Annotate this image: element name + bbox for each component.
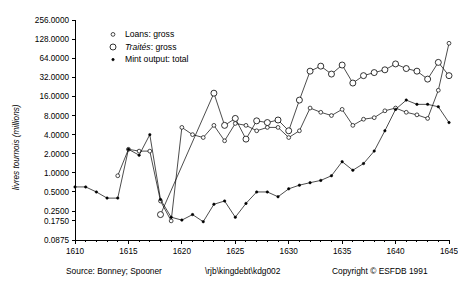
data-point bbox=[319, 110, 323, 114]
data-point bbox=[447, 41, 451, 45]
y-tick-label: 2.0000 bbox=[44, 150, 69, 159]
data-point bbox=[287, 188, 290, 191]
data-point bbox=[191, 133, 195, 137]
data-point bbox=[244, 123, 248, 127]
chart-figure: 256.0000128.000064.000032.000016.00008.0… bbox=[0, 0, 458, 288]
data-point bbox=[328, 71, 334, 77]
data-point bbox=[318, 63, 324, 69]
data-point bbox=[266, 191, 269, 194]
x-tick-label: 1615 bbox=[119, 247, 138, 256]
data-point bbox=[223, 139, 227, 143]
data-point bbox=[264, 120, 270, 126]
y-tick-label: 16.0000 bbox=[39, 92, 69, 101]
y-tick-label: 4.0000 bbox=[44, 131, 69, 140]
data-point bbox=[362, 117, 366, 121]
x-tick-label: 1630 bbox=[280, 247, 299, 256]
y-tick-label: 256.0000 bbox=[35, 16, 70, 25]
data-point bbox=[277, 196, 280, 199]
y-tick-label: 32.0000 bbox=[39, 73, 69, 82]
data-point bbox=[127, 148, 130, 151]
data-point bbox=[169, 219, 173, 223]
data-point bbox=[298, 184, 301, 187]
data-point bbox=[149, 133, 152, 136]
data-point bbox=[403, 66, 409, 72]
data-point bbox=[339, 62, 345, 68]
data-point bbox=[426, 117, 430, 121]
x-tick-label: 1620 bbox=[173, 247, 192, 256]
data-point bbox=[233, 122, 237, 126]
data-point bbox=[275, 117, 281, 123]
data-point bbox=[362, 162, 365, 165]
data-point bbox=[95, 191, 98, 194]
data-point bbox=[425, 76, 431, 82]
x-tick-label: 1645 bbox=[440, 247, 458, 256]
data-point bbox=[234, 216, 237, 219]
y-tick-label: 1.0000 bbox=[44, 169, 69, 178]
data-point bbox=[180, 126, 184, 130]
data-point bbox=[330, 114, 334, 118]
footer-copyright: Copyright © ESFDB 1991 bbox=[332, 266, 428, 276]
data-point bbox=[320, 179, 323, 182]
data-point bbox=[446, 73, 452, 79]
data-point bbox=[245, 202, 248, 205]
data-point bbox=[255, 191, 258, 194]
y-tick-label: 0.5000 bbox=[44, 188, 69, 197]
data-point bbox=[106, 197, 109, 200]
data-point bbox=[414, 68, 420, 74]
data-point bbox=[404, 110, 408, 114]
y-tick-label: 0.0875 bbox=[44, 236, 69, 245]
data-point bbox=[340, 107, 344, 111]
chart-footer: Source: Bonney; Spooner \rjb\kingdebt\kd… bbox=[66, 266, 428, 276]
data-point bbox=[191, 213, 194, 216]
data-point bbox=[394, 108, 397, 111]
legend-marker-open-circle-large bbox=[110, 44, 116, 50]
legend-label: Loans: gross bbox=[125, 29, 174, 39]
data-point bbox=[201, 136, 205, 140]
legend-marker-open-circle-small bbox=[111, 33, 115, 37]
data-point bbox=[373, 150, 376, 153]
data-point bbox=[254, 118, 260, 124]
y-tick-label: 64.0000 bbox=[39, 54, 69, 63]
legend-marker-filled-dot bbox=[112, 58, 115, 61]
data-point bbox=[436, 88, 440, 92]
y-tick-label: 8.0000 bbox=[44, 112, 69, 121]
data-point bbox=[232, 115, 238, 121]
data-point bbox=[74, 186, 77, 189]
data-point bbox=[437, 106, 440, 109]
data-point bbox=[213, 203, 216, 206]
data-point bbox=[383, 109, 387, 113]
data-point bbox=[298, 129, 302, 133]
x-tick-label: 1635 bbox=[333, 247, 352, 256]
data-point bbox=[148, 149, 152, 153]
data-point bbox=[372, 116, 376, 120]
x-tick-label: 1610 bbox=[66, 247, 85, 256]
legend-label: Traités: gross bbox=[125, 42, 176, 52]
data-point bbox=[159, 198, 162, 201]
data-point bbox=[361, 73, 367, 79]
data-point bbox=[330, 175, 333, 178]
x-tick-label: 1625 bbox=[226, 247, 245, 256]
data-point bbox=[138, 154, 141, 157]
data-point bbox=[435, 59, 441, 65]
log-line-chart: 256.0000128.000064.000032.000016.00008.0… bbox=[0, 0, 458, 288]
data-point bbox=[296, 97, 302, 103]
data-point bbox=[276, 126, 280, 130]
data-point bbox=[341, 160, 344, 163]
footer-source: Source: Bonney; Spooner bbox=[66, 266, 162, 276]
data-point bbox=[157, 212, 163, 218]
data-point bbox=[286, 128, 292, 134]
data-point bbox=[116, 174, 120, 178]
data-point bbox=[255, 129, 259, 133]
x-tick-label: 1640 bbox=[386, 247, 405, 256]
data-point bbox=[308, 106, 312, 110]
data-point bbox=[265, 126, 269, 130]
data-point bbox=[350, 80, 356, 86]
data-point bbox=[426, 103, 429, 106]
data-point bbox=[307, 68, 313, 74]
data-point bbox=[181, 219, 184, 222]
y-axis-title: livres tournois (millions) bbox=[12, 104, 21, 190]
data-point bbox=[222, 122, 228, 128]
data-point bbox=[170, 216, 173, 219]
data-point bbox=[84, 186, 87, 189]
data-point bbox=[393, 61, 399, 67]
